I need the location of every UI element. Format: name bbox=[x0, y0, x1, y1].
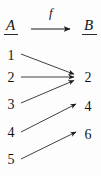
mapping-arrows-group bbox=[0, 0, 101, 176]
edge-3-to-2 bbox=[21, 81, 74, 104]
edge-4-to-4 bbox=[21, 104, 76, 132]
function-mapping-diagram: A f B 1 2 3 4 5 2 4 6 bbox=[0, 0, 101, 176]
edge-5-to-6 bbox=[21, 132, 76, 159]
edge-1-to-2 bbox=[21, 54, 74, 74]
